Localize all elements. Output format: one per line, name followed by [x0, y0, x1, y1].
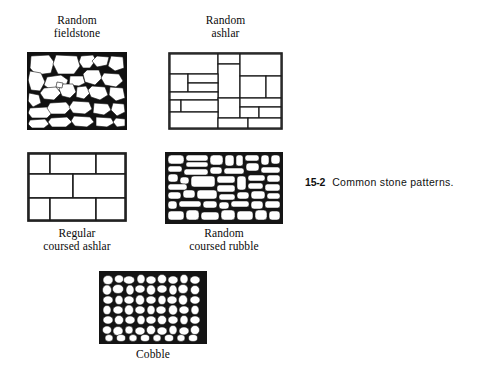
random-ashlar-drawing	[168, 52, 283, 130]
figure-caption: 15-2Common stone patterns.	[305, 176, 454, 188]
panel-label-random-coursed-rubble: Random coursed rubble	[160, 227, 288, 253]
panel-label-random-fieldstone: Random fieldstone	[27, 14, 127, 40]
pattern-panel-cobble	[99, 271, 207, 344]
panel-label-random-ashlar: Random ashlar	[168, 14, 283, 40]
pattern-panel-random-ashlar	[168, 52, 283, 130]
pattern-panel-random-coursed-rubble	[165, 152, 283, 224]
panel-label-cobble: Cobble	[99, 348, 207, 361]
pattern-panel-regular-coursed-ashlar	[27, 152, 127, 222]
random-fieldstone-drawing	[27, 52, 127, 130]
stone-patterns-figure: Random fieldstone	[0, 0, 483, 383]
figure-caption-text: Common stone patterns.	[332, 176, 454, 188]
figure-number: 15-2	[305, 176, 325, 188]
cobble-drawing	[99, 271, 207, 344]
panel-label-regular-coursed-ashlar: Regular coursed ashlar	[17, 227, 137, 253]
pattern-panel-random-fieldstone	[27, 52, 127, 130]
random-coursed-rubble-drawing	[165, 152, 283, 224]
regular-coursed-ashlar-drawing	[27, 152, 127, 222]
